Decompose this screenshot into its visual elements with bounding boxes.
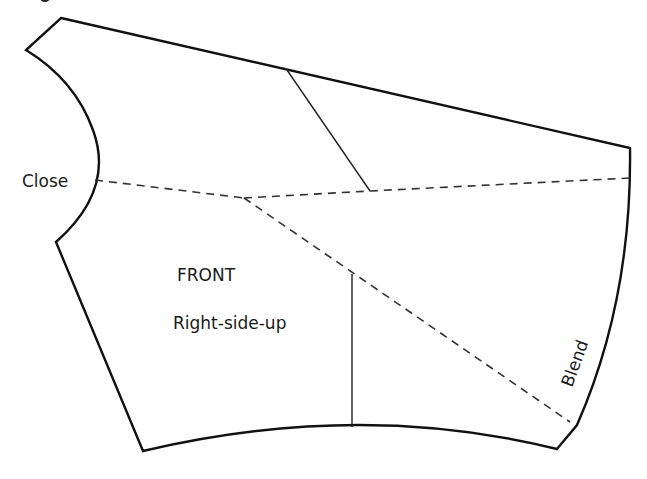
close-label: Close: [22, 171, 68, 191]
orientation-label: Right-side-up: [173, 313, 286, 333]
pattern-piece-outline: [26, 18, 630, 451]
pattern-piece-diagram: Close FRONT Right-side-up Blend: [0, 0, 647, 479]
piece-name-label: FRONT: [177, 265, 236, 285]
